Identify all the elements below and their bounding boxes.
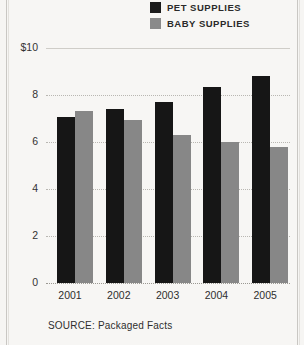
bar-pet-supplies-2005 (252, 76, 270, 283)
bar-baby-supplies-2004 (221, 142, 239, 283)
x-axis-label-2003: 2003 (145, 289, 191, 301)
bar-series-container (46, 48, 290, 283)
bar-baby-supplies-2001 (75, 111, 93, 283)
baby-supplies-swatch-icon (150, 18, 161, 29)
legend-item-pet-supplies: PET SUPPLIES (150, 2, 250, 13)
bar-baby-supplies-2002 (124, 120, 142, 283)
x-axis-labels: 20012002200320042005 (46, 289, 290, 305)
page-edge-rule-right (297, 0, 298, 345)
y-tick-label-8: 8 (0, 88, 38, 100)
bar-pet-supplies-2004 (203, 87, 221, 283)
bar-pet-supplies-2001 (57, 117, 75, 283)
x-axis-label-2002: 2002 (96, 289, 142, 301)
legend-label-baby-supplies: BABY SUPPLIES (167, 18, 250, 29)
source-note: SOURCE: Packaged Facts (48, 320, 172, 331)
bar-baby-supplies-2005 (270, 147, 288, 283)
bar-baby-supplies-2003 (173, 135, 191, 283)
chart-legend: PET SUPPLIES BABY SUPPLIES (150, 2, 250, 29)
legend-label-pet-supplies: PET SUPPLIES (167, 2, 241, 13)
y-tick-label-4: 4 (0, 182, 38, 194)
chart-page: PET SUPPLIES BABY SUPPLIES 02468$10 2001… (0, 0, 304, 345)
bar-pet-supplies-2002 (106, 109, 124, 283)
legend-item-baby-supplies: BABY SUPPLIES (150, 18, 250, 29)
x-axis-label-2004: 2004 (193, 289, 239, 301)
gridline-0 (46, 283, 290, 284)
bar-pet-supplies-2003 (155, 102, 173, 283)
y-tick-label-0: 0 (0, 276, 38, 288)
pet-supplies-swatch-icon (150, 2, 161, 13)
y-tick-label-6: 6 (0, 135, 38, 147)
x-axis-label-2001: 2001 (47, 289, 93, 301)
page-edge-rule-right-2 (299, 0, 300, 345)
y-tick-label-2: 2 (0, 229, 38, 241)
plot-area: 02468$10 (46, 48, 290, 283)
y-tick-label-10: $10 (0, 41, 38, 53)
x-axis-label-2005: 2005 (242, 289, 288, 301)
